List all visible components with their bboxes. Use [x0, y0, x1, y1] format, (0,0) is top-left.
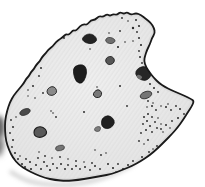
stipple-dot — [25, 158, 27, 160]
stipple-dot — [112, 167, 114, 169]
stipple-dot — [142, 123, 144, 125]
stipple-dot — [50, 110, 52, 112]
stipple-dot — [165, 124, 167, 126]
stipple-dot — [155, 109, 157, 111]
stipple-dot — [127, 20, 129, 22]
stipple-dot — [67, 158, 69, 160]
stipple-dot — [108, 32, 110, 34]
stipple-dot — [121, 17, 123, 19]
stipple-dot — [34, 97, 36, 99]
stipple-dot — [84, 166, 86, 168]
stipple-dot — [179, 108, 181, 110]
stipple-dot — [75, 165, 77, 167]
stipple-dot — [147, 113, 149, 115]
stipple-dot — [139, 56, 141, 58]
stipple-dot — [94, 165, 96, 167]
stipple-dot — [138, 37, 140, 39]
stipple-dot — [89, 169, 91, 171]
stipple-dot — [156, 127, 158, 129]
illustration-stage — [0, 0, 205, 187]
stipple-dot — [138, 25, 140, 27]
stipple-dot — [11, 146, 13, 148]
stipple-dot — [146, 120, 148, 122]
stipple-dot — [160, 105, 162, 107]
stipple-dot — [49, 169, 51, 171]
stipple-dot — [147, 139, 149, 141]
rock-illustration — [0, 0, 205, 187]
stipple-dot — [32, 85, 34, 87]
stipple-dot — [71, 168, 73, 170]
stipple-dot — [138, 140, 140, 142]
stipple-dot — [145, 129, 147, 131]
stipple-dot — [117, 163, 119, 165]
stipple-dot — [140, 132, 142, 134]
stipple-dot — [37, 157, 39, 159]
stipple-dot — [100, 154, 102, 156]
stipple-dot — [162, 131, 164, 133]
stipple-dot — [59, 156, 61, 158]
stipple-dot — [43, 161, 45, 163]
stipple-dot — [136, 31, 138, 33]
stipple-dot — [64, 168, 66, 170]
stipple-dot — [119, 85, 121, 87]
stipple-dot — [157, 91, 159, 93]
stipple-dot — [126, 105, 128, 107]
stipple-dot — [183, 113, 185, 115]
stipple-dot — [169, 127, 171, 129]
stipple-dot — [132, 27, 134, 29]
stipple-dot — [138, 50, 140, 52]
stipple-dot — [167, 103, 169, 105]
stipple-dot — [12, 126, 14, 128]
stipple-dot — [146, 106, 148, 108]
stipple-dot — [14, 152, 16, 154]
stipple-dot — [177, 117, 179, 119]
stipple-dot — [27, 95, 28, 96]
stipple-dot — [147, 100, 149, 102]
stipple-dot — [151, 131, 153, 133]
stipple-dot — [171, 120, 173, 122]
stipple-dot — [132, 160, 134, 162]
stipple-dot — [12, 139, 14, 141]
stipple-dot — [67, 164, 69, 166]
stipple-dot — [160, 128, 162, 130]
stipple-dot — [152, 148, 154, 150]
stipple-dot — [60, 163, 62, 165]
stipple-dot — [27, 89, 29, 91]
stipple-dot — [140, 44, 142, 46]
stipple-dot — [132, 40, 134, 42]
stipple-dot — [75, 160, 77, 162]
stipple-dot — [21, 163, 23, 165]
stipple-dot — [19, 155, 21, 157]
stipple-dot — [107, 163, 109, 165]
stipple-dot — [151, 116, 153, 118]
stipple-dot — [127, 164, 129, 166]
stipple-dot — [42, 92, 44, 94]
stipple-dot — [153, 87, 155, 89]
stipple-dot — [40, 67, 42, 69]
inclusion-1 — [82, 34, 96, 44]
stipple-dot — [99, 168, 101, 170]
stipple-dot — [52, 112, 54, 114]
stipple-dot — [165, 106, 167, 108]
stipple-dot — [89, 48, 91, 50]
stipple-dot — [156, 145, 158, 147]
stipple-dot — [44, 155, 46, 157]
stipple-dot — [38, 75, 40, 77]
stipple-dot — [15, 116, 17, 118]
stipple-dot — [35, 164, 37, 166]
stipple-dot — [151, 105, 153, 107]
stipple-dot — [141, 62, 143, 64]
stipple-dot — [135, 19, 137, 21]
stipple-dot — [119, 30, 121, 32]
stipple-dot — [154, 121, 156, 123]
inclusion-4 — [106, 56, 115, 64]
stipple-dot — [10, 119, 12, 121]
stipple-dot — [157, 117, 159, 119]
stipple-dot — [83, 111, 85, 113]
stipple-dot — [148, 151, 150, 153]
stipple-dot — [175, 105, 177, 107]
stipple-dot — [117, 46, 119, 48]
stipple-dot — [29, 161, 31, 163]
stipple-dot — [124, 41, 126, 43]
stipple-dot — [170, 109, 172, 111]
